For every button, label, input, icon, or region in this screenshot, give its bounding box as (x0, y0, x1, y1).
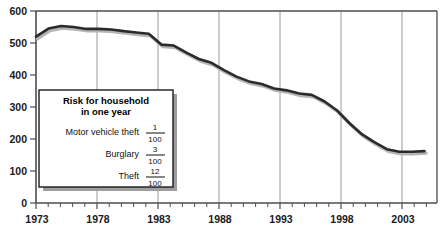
legend-denominator-burglary: 100 (148, 157, 162, 166)
figure-caption (0, 230, 447, 237)
x-tick-label-1983: 1983 (147, 213, 171, 225)
x-tick-label-1993: 1993 (269, 213, 293, 225)
y-tick-label-300: 300 (9, 101, 27, 113)
x-tick-label-2003: 2003 (391, 213, 415, 225)
y-axis-ticks (30, 11, 36, 203)
y-tick-label-500: 500 (9, 37, 27, 49)
legend-denominator-theft: 100 (148, 179, 162, 188)
x-tick-label-1973: 1973 (25, 213, 49, 225)
x-tick-label-1988: 1988 (208, 213, 232, 225)
x-tick-label-1998: 1998 (330, 213, 354, 225)
legend-denominator-motor-vehicle-theft: 100 (148, 135, 162, 144)
legend-title-line1: Risk for household (63, 95, 149, 106)
x-axis-major-ticks (36, 203, 402, 209)
legend-title-line2: in one year (81, 106, 131, 117)
legend-label-theft: Theft (118, 171, 139, 181)
y-tick-label-400: 400 (9, 69, 27, 81)
legend-numerator-motor-vehicle-theft: 1 (153, 123, 158, 132)
legend-numerator-burglary: 3 (153, 145, 158, 154)
x-tick-label-1978: 1978 (86, 213, 110, 225)
line-chart: 600 500 400 300 200 100 0 (0, 0, 447, 237)
legend-box: Risk for household in one year Motor veh… (39, 90, 177, 191)
y-tick-label-100: 100 (9, 165, 27, 177)
legend-label-motor-vehicle-theft: Motor vehicle theft (65, 127, 139, 137)
y-tick-label-600: 600 (9, 5, 27, 17)
y-tick-label-200: 200 (9, 133, 27, 145)
legend-numerator-theft: 12 (151, 167, 160, 176)
chart-figure: 600 500 400 300 200 100 0 (0, 0, 447, 237)
legend-label-burglary: Burglary (105, 149, 139, 159)
y-tick-label-0: 0 (21, 197, 27, 209)
